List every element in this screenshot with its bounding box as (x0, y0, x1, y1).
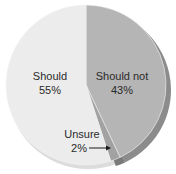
label-should-not-name: Should not (96, 70, 149, 82)
label-unsure-value: 2% (71, 142, 87, 154)
label-should-value: 55% (39, 84, 61, 96)
pie-slices (6, 5, 166, 165)
label-unsure-name: Unsure (64, 128, 99, 140)
pie-chart: Should 55% Should not 43% Unsure 2% (0, 0, 176, 174)
label-should-not-value: 43% (111, 84, 133, 96)
label-should-name: Should (33, 70, 67, 82)
